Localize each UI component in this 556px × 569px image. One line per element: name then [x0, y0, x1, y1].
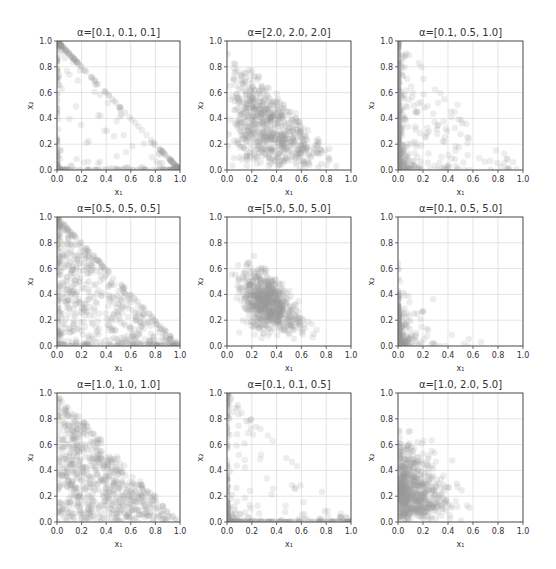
x-axis-label: x₁ [285, 540, 293, 549]
y-tick-label: 0.0 [380, 342, 393, 351]
x-tick-label: 0.0 [221, 527, 234, 536]
scatter-points [54, 395, 179, 525]
scatter-points [395, 38, 520, 173]
y-tick-label: 0.0 [380, 166, 393, 175]
y-tick-label: 0.2 [39, 140, 52, 149]
y-axis-label: x₂ [367, 454, 376, 462]
x-tick-label: 0.8 [149, 527, 162, 536]
x-tick-label: 0.0 [392, 175, 405, 184]
y-axis-label: x₂ [367, 102, 376, 110]
x-tick-label: 0.8 [149, 351, 162, 360]
subplot-title: α=[1.0, 1.0, 1.0] [77, 379, 160, 390]
y-tick-label: 0.4 [39, 114, 52, 123]
y-tick-label: 0.6 [380, 265, 393, 274]
y-tick-label: 0.4 [209, 114, 222, 123]
x-tick-label: 0.4 [270, 175, 283, 184]
x-tick-label: 0.0 [392, 351, 405, 360]
x-axis-label: x₁ [285, 364, 293, 373]
subplot-5: 0.00.20.40.60.81.00.00.20.40.60.81.0α=[5… [196, 203, 357, 373]
x-tick-label: 1.0 [345, 351, 358, 360]
x-tick-label: 0.4 [442, 527, 455, 536]
x-tick-label: 1.0 [345, 175, 358, 184]
x-tick-label: 0.2 [245, 175, 258, 184]
y-tick-label: 1.0 [380, 389, 393, 398]
subplot-4: 0.00.20.40.60.81.00.00.20.40.60.81.0α=[0… [26, 203, 186, 373]
y-tick-label: 0.6 [380, 89, 393, 98]
x-tick-label: 0.6 [467, 351, 480, 360]
y-axis-label: x₂ [26, 102, 35, 110]
scatter-points [395, 427, 473, 524]
x-axis-label: x₁ [457, 188, 465, 197]
x-tick-label: 0.6 [467, 527, 480, 536]
scatter-points [225, 51, 340, 172]
y-tick-label: 0.0 [39, 166, 52, 175]
x-tick-label: 0.4 [442, 175, 455, 184]
y-tick-label: 0.0 [39, 518, 52, 527]
subplot-7: 0.00.20.40.60.81.00.00.20.40.60.81.0α=[1… [26, 379, 186, 549]
scatter-points [54, 38, 183, 173]
x-tick-label: 0.0 [51, 351, 64, 360]
x-tick-label: 0.0 [221, 175, 234, 184]
y-tick-label: 0.8 [380, 63, 393, 72]
x-tick-label: 1.0 [345, 527, 358, 536]
subplot-1: 0.00.20.40.60.81.00.00.20.40.60.81.0α=[0… [26, 27, 186, 197]
x-tick-label: 0.2 [245, 527, 258, 536]
x-tick-label: 0.2 [245, 351, 258, 360]
scatter-points [229, 253, 320, 342]
y-tick-label: 0.6 [380, 441, 393, 450]
y-tick-label: 0.2 [39, 492, 52, 501]
y-tick-label: 0.0 [209, 166, 222, 175]
x-tick-label: 0.2 [75, 175, 88, 184]
x-tick-label: 0.4 [100, 527, 113, 536]
axes-frame [398, 217, 523, 346]
y-tick-label: 0.2 [380, 492, 393, 501]
x-tick-label: 0.8 [149, 175, 162, 184]
y-tick-label: 0.0 [209, 518, 222, 527]
subplot-title: α=[0.1, 0.5, 5.0] [419, 203, 502, 214]
x-axis-label: x₁ [115, 188, 123, 197]
subplot-9: 0.00.20.40.60.81.00.00.20.40.60.81.0α=[1… [367, 379, 529, 549]
x-tick-label: 0.2 [75, 527, 88, 536]
x-tick-label: 0.8 [492, 527, 505, 536]
x-tick-label: 0.0 [51, 175, 64, 184]
y-tick-label: 0.8 [380, 415, 393, 424]
y-tick-label: 0.4 [39, 290, 52, 299]
x-tick-label: 0.4 [100, 351, 113, 360]
x-tick-label: 0.4 [100, 175, 113, 184]
x-tick-label: 1.0 [517, 527, 530, 536]
y-axis-label: x₂ [367, 278, 376, 286]
x-tick-label: 0.4 [442, 351, 455, 360]
y-tick-label: 0.8 [39, 239, 52, 248]
y-tick-label: 0.8 [209, 239, 222, 248]
y-tick-label: 0.6 [39, 265, 52, 274]
scatter-points [395, 260, 485, 349]
y-axis-label: x₂ [196, 102, 205, 110]
y-tick-label: 0.8 [209, 63, 222, 72]
x-tick-label: 0.6 [295, 175, 308, 184]
y-axis-label: x₂ [196, 278, 205, 286]
x-tick-label: 0.8 [320, 351, 333, 360]
x-tick-label: 0.6 [124, 351, 137, 360]
y-tick-label: 0.2 [209, 140, 222, 149]
x-tick-label: 0.6 [467, 175, 480, 184]
x-tick-label: 0.2 [417, 351, 430, 360]
y-tick-label: 1.0 [39, 213, 52, 222]
subplot-title: α=[0.1, 0.5, 1.0] [419, 27, 502, 38]
y-axis-label: x₂ [196, 454, 205, 462]
y-tick-label: 1.0 [209, 213, 222, 222]
y-tick-label: 0.6 [209, 265, 222, 274]
y-tick-label: 0.6 [209, 89, 222, 98]
subplot-6: 0.00.20.40.60.81.00.00.20.40.60.81.0α=[0… [367, 203, 529, 373]
subplot-title: α=[0.5, 0.5, 0.5] [77, 203, 160, 214]
x-tick-label: 0.0 [392, 527, 405, 536]
y-tick-label: 0.8 [380, 239, 393, 248]
subplot-title: α=[0.1, 0.1, 0.1] [77, 27, 160, 38]
x-tick-label: 1.0 [517, 175, 530, 184]
y-tick-label: 0.4 [380, 466, 393, 475]
x-tick-label: 0.2 [75, 351, 88, 360]
y-tick-label: 1.0 [39, 37, 52, 46]
x-axis-label: x₁ [285, 188, 293, 197]
y-tick-label: 1.0 [209, 37, 222, 46]
y-tick-label: 0.2 [39, 316, 52, 325]
x-axis-label: x₁ [115, 364, 123, 373]
